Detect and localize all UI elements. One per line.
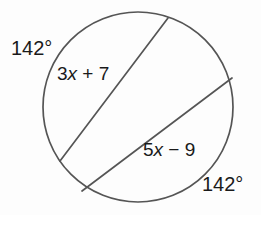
chord-upper-operator: + xyxy=(77,63,99,84)
chord-label-upper: 3x + 7 xyxy=(57,64,109,83)
chord-lower-coefficient: 5 xyxy=(143,139,154,160)
chord-lower-variable: x xyxy=(154,139,164,160)
chord-upper-constant: 7 xyxy=(99,63,110,84)
chord-lower-operator: − xyxy=(163,139,185,160)
chord-label-lower: 5x − 9 xyxy=(143,140,195,159)
chord-lower-constant: 9 xyxy=(185,139,196,160)
chord-upper-coefficient: 3 xyxy=(57,63,68,84)
chord-upper-variable: x xyxy=(68,63,78,84)
arc-label-bottom-right: 142° xyxy=(202,174,243,194)
arc-label-top-left: 142° xyxy=(11,38,52,58)
